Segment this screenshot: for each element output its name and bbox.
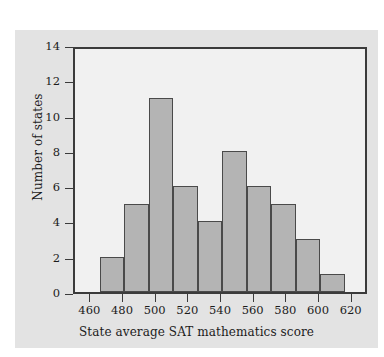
- y-tick-label: 4: [20, 217, 60, 229]
- y-tick-label: 0: [20, 288, 60, 300]
- y-tick-mark: [65, 82, 73, 83]
- histogram-bar: [124, 204, 149, 292]
- x-tick-mark: [122, 294, 123, 302]
- histogram-bar: [100, 257, 125, 292]
- bars-container: [75, 49, 365, 292]
- histogram-bar: [320, 274, 345, 292]
- y-tick-mark: [65, 259, 73, 260]
- x-tick-mark: [285, 294, 286, 302]
- y-tick-mark: [65, 47, 73, 48]
- y-tick-label: 10: [20, 112, 60, 124]
- y-tick-mark: [65, 223, 73, 224]
- x-tick-mark: [155, 294, 156, 302]
- x-tick-mark: [220, 294, 221, 302]
- y-tick-label: 6: [20, 182, 60, 194]
- histogram-bar: [222, 151, 247, 292]
- x-tick-mark: [187, 294, 188, 302]
- y-tick-mark: [65, 188, 73, 189]
- x-tick-label: 620: [329, 305, 373, 317]
- y-tick-label: 2: [20, 253, 60, 265]
- y-tick-label: 14: [20, 41, 60, 53]
- histogram-bar: [271, 204, 296, 292]
- plot-frame: [73, 47, 367, 294]
- histogram-bar: [173, 186, 198, 292]
- y-tick-label: 12: [20, 76, 60, 88]
- x-tick-mark: [351, 294, 352, 302]
- histogram-bar: [198, 221, 223, 292]
- x-axis-title: State average SAT mathematics score: [15, 325, 378, 339]
- y-tick-label: 8: [20, 147, 60, 159]
- x-tick-mark: [253, 294, 254, 302]
- histogram-bar: [149, 98, 174, 292]
- y-tick-mark: [65, 118, 73, 119]
- figure-panel: Number of states 02468101214 46048050052…: [15, 30, 378, 348]
- y-tick-mark: [65, 294, 73, 295]
- x-tick-mark: [89, 294, 90, 302]
- histogram-bar: [296, 239, 321, 292]
- y-tick-mark: [65, 153, 73, 154]
- x-tick-mark: [318, 294, 319, 302]
- histogram-bar: [247, 186, 272, 292]
